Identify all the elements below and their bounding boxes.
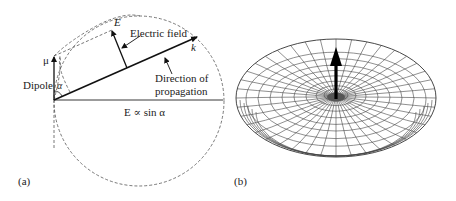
panel-a: μ Dipole α E Electric field k Direction … xyxy=(18,15,224,188)
e-vector-label: E xyxy=(113,16,121,28)
alpha-label: α xyxy=(57,80,63,91)
mu-label: μ xyxy=(43,54,49,66)
radiation-pattern-circle xyxy=(54,16,224,186)
formula-label: E ∝ sin α xyxy=(124,106,165,118)
electric-field-label: Electric field xyxy=(130,27,188,39)
figure: μ Dipole α E Electric field k Direction … xyxy=(0,0,456,201)
panel-b-label: (b) xyxy=(234,175,247,188)
dashed-guide-outer xyxy=(54,15,140,56)
k-vector-label: k xyxy=(191,41,197,53)
dashed-small-lobe xyxy=(54,56,70,148)
panel-b: (b) xyxy=(234,39,436,188)
panel-a-label: (a) xyxy=(18,175,31,188)
propagation-label-line2: propagation xyxy=(155,85,208,97)
alpha-arc xyxy=(54,91,62,96)
propagation-label-line1: Direction of xyxy=(155,72,209,84)
dipole-label: Dipole xyxy=(23,79,53,91)
electric-field-arrow xyxy=(112,31,127,68)
